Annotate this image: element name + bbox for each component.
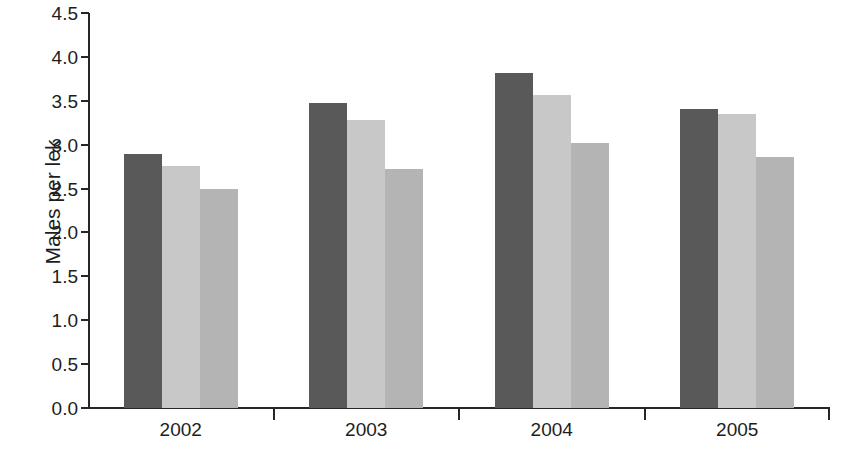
y-axis-tick — [81, 319, 89, 321]
bar — [347, 120, 385, 408]
y-axis-tick-label: 3.5 — [34, 92, 78, 111]
y-axis-tick-label: 1.5 — [34, 267, 78, 286]
y-axis-tick-label: 2.5 — [34, 180, 78, 199]
y-axis-tick — [81, 275, 89, 277]
bar — [124, 154, 162, 408]
y-axis-tick-label: 1.0 — [34, 311, 78, 330]
bar — [718, 114, 756, 408]
bar — [385, 169, 423, 408]
bar-chart-figure: Males per lek 4.54.03.53.02.52.01.51.00.… — [0, 0, 858, 449]
x-axis-label: 2004 — [472, 420, 632, 439]
bar — [162, 166, 200, 408]
cut-off-caption — [180, 0, 700, 2]
y-axis-tick — [81, 144, 89, 146]
y-axis-tick — [81, 363, 89, 365]
y-axis-tick — [81, 231, 89, 233]
y-axis-tick — [81, 188, 89, 190]
y-axis-tick — [81, 56, 89, 58]
bar — [571, 143, 609, 408]
y-axis-line — [88, 13, 90, 408]
y-axis-tick-label: 0.0 — [34, 399, 78, 418]
y-axis-tick — [81, 100, 89, 102]
x-axis-label: 2003 — [286, 420, 446, 439]
x-axis-group-tick — [273, 409, 275, 420]
bar — [533, 95, 571, 408]
y-axis-tick-label: 4.0 — [34, 48, 78, 67]
x-axis-label: 2002 — [101, 420, 261, 439]
x-axis-label: 2005 — [657, 420, 817, 439]
y-axis-tick — [81, 12, 89, 14]
x-axis-end-tick — [828, 409, 830, 420]
bar — [495, 73, 533, 408]
bar — [680, 109, 718, 408]
y-axis-tick-label: 0.5 — [34, 355, 78, 374]
y-axis-tick — [81, 407, 89, 409]
x-axis-group-tick — [458, 409, 460, 420]
y-axis-tick-label: 4.5 — [34, 4, 78, 23]
bar — [309, 103, 347, 408]
bar — [200, 189, 238, 408]
y-axis-tick-label: 2.0 — [34, 223, 78, 242]
y-axis-tick-label: 3.0 — [34, 136, 78, 155]
bar — [756, 157, 794, 408]
x-axis-group-tick — [644, 409, 646, 420]
